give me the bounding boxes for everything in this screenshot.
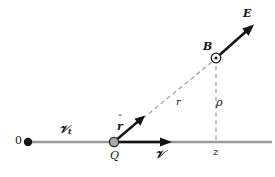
r-hat-base: r — [117, 120, 123, 133]
b-field-out-of-page-icon — [211, 53, 221, 63]
velocity-vector-arrow — [116, 137, 172, 146]
charge-marker-icon — [109, 137, 118, 146]
physics-vector-diagram: 0 𝒱t Q 𝒱 ˆr r ρ z B E — [0, 0, 275, 177]
e-field-vector-arrow — [219, 25, 254, 56]
r-hat-label: ˆr — [117, 117, 123, 132]
rho-label: ρ — [216, 97, 222, 108]
vt-base: 𝒱 — [59, 123, 68, 136]
vt-distance-label: 𝒱t — [59, 124, 72, 135]
velocity-label: 𝒱 — [155, 149, 164, 160]
diagram-canvas — [0, 0, 275, 177]
distance-r-label: r — [176, 97, 181, 107]
e-field-label: E — [243, 8, 251, 19]
origin-label: 0 — [15, 135, 22, 146]
z-label: z — [213, 147, 218, 157]
origin-dot-icon — [24, 138, 32, 146]
vt-subscript: t — [68, 126, 72, 136]
charge-label: Q — [110, 150, 119, 161]
b-field-label: B — [203, 41, 212, 52]
